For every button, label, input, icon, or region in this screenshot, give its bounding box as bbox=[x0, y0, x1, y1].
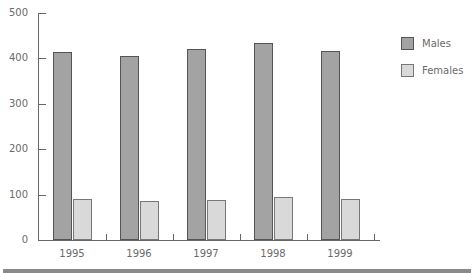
legend-item-males: Males bbox=[401, 37, 451, 50]
bar-males-1997 bbox=[187, 49, 206, 240]
bar-males-1998 bbox=[254, 43, 273, 240]
bar-males-1996 bbox=[120, 56, 139, 240]
y-tick bbox=[38, 58, 46, 59]
y-tick-label: 500 bbox=[0, 7, 28, 19]
x-tick-label: 1999 bbox=[315, 248, 365, 259]
x-tick-label: 1997 bbox=[181, 248, 231, 259]
bar-males-1995 bbox=[53, 52, 72, 240]
bar-females-1998 bbox=[274, 197, 293, 240]
y-tick-label: 400 bbox=[0, 52, 28, 64]
x-tick-label: 1995 bbox=[47, 248, 97, 259]
footer-divider bbox=[3, 269, 471, 273]
x-tick bbox=[106, 234, 107, 240]
y-axis bbox=[38, 13, 39, 240]
bar-males-1999 bbox=[321, 51, 340, 240]
legend-swatch-males bbox=[401, 37, 414, 50]
legend-swatch-females bbox=[401, 64, 414, 77]
bar-females-1997 bbox=[207, 200, 226, 240]
bar-females-1996 bbox=[140, 201, 159, 240]
legend-label-males: Males bbox=[422, 38, 451, 49]
y-tick-label: 0 bbox=[0, 234, 28, 246]
bar-females-1999 bbox=[341, 199, 360, 240]
x-axis bbox=[38, 240, 380, 241]
y-tick-label: 300 bbox=[0, 98, 28, 110]
bar-females-1995 bbox=[73, 199, 92, 240]
legend-label-females: Females bbox=[422, 65, 463, 76]
y-tick bbox=[38, 149, 46, 150]
x-tick-label: 1996 bbox=[114, 248, 164, 259]
x-tick bbox=[307, 234, 308, 240]
y-tick bbox=[38, 13, 46, 14]
y-tick bbox=[38, 104, 46, 105]
x-tick bbox=[173, 234, 174, 240]
y-tick bbox=[38, 195, 46, 196]
x-tick bbox=[240, 234, 241, 240]
x-tick bbox=[374, 234, 375, 240]
y-tick-label: 100 bbox=[0, 189, 28, 201]
y-tick-label: 200 bbox=[0, 143, 28, 155]
bar-chart: 0100200300400500 19951996199719981999 Ma… bbox=[0, 0, 475, 273]
x-tick-label: 1998 bbox=[248, 248, 298, 259]
legend-item-females: Females bbox=[401, 64, 463, 77]
